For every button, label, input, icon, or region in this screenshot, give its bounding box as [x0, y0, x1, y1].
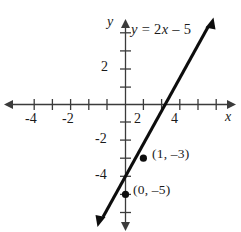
equation-label-eq: = 2: [138, 21, 162, 37]
x-tick-label-minus4: -4: [25, 112, 37, 126]
y-tick-label-2: 2: [101, 60, 108, 74]
point-label-1-neg3: (1, –3): [152, 147, 189, 161]
point-label-0-neg5: (0, –5): [133, 183, 170, 197]
equation-label: y = 2x – 5: [131, 22, 191, 37]
y-axis-label: y: [107, 15, 113, 29]
y-tick-label-minus2: -2: [95, 132, 107, 146]
x-tick-label-4: 4: [171, 112, 178, 126]
equation-label-y: y: [131, 21, 138, 37]
x-tick-label-2: 2: [134, 112, 141, 126]
data-point-0-neg5: [122, 191, 129, 198]
equation-label-tail: – 5: [168, 21, 191, 37]
x-axis: [4, 100, 236, 109]
y-tick-label-minus4: -4: [95, 168, 107, 182]
x-tick-label-minus2: -2: [62, 112, 74, 126]
data-point-1-neg3: [140, 155, 147, 162]
x-axis-label: x: [225, 110, 231, 124]
graph-figure: -4 -2 2 4 2 -2 -4 x y y = 2x – 5 (1, –3)…: [0, 0, 241, 232]
